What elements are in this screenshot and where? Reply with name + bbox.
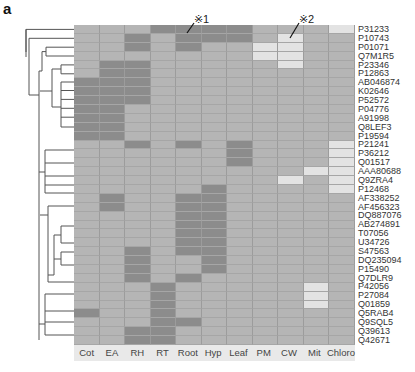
heatmap-cell: [227, 78, 253, 87]
heatmap-cell: [151, 327, 177, 336]
heatmap-cell: [329, 256, 355, 265]
heatmap-cell: [74, 69, 100, 78]
heatmap-cell: [278, 274, 304, 283]
heatmap-cell: [100, 132, 126, 141]
heatmap-cell: [253, 61, 279, 70]
heatmap-cell: [100, 238, 126, 247]
heatmap-cell: [100, 78, 126, 87]
heatmap-cell: [329, 132, 355, 141]
heatmap-cell: [125, 185, 151, 194]
heatmap-cell: [74, 327, 100, 336]
heatmap-cell: [304, 114, 330, 123]
heatmap-cell: [329, 301, 355, 310]
heatmap-cell: [227, 309, 253, 318]
heatmap-cell: [202, 265, 228, 274]
heatmap-cell: [278, 301, 304, 310]
heatmap-cell: [74, 292, 100, 301]
heatmap-cell: [329, 292, 355, 301]
heatmap-cell: [74, 87, 100, 96]
heatmap-cell: [151, 283, 177, 292]
heatmap-cell: [278, 212, 304, 221]
heatmap-cell: [304, 212, 330, 221]
heatmap-cell: [125, 229, 151, 238]
heatmap-cell: [74, 229, 100, 238]
heatmap-cell: [253, 167, 279, 176]
heatmap-cell: [253, 105, 279, 114]
heatmap-cell: [202, 96, 228, 105]
column-label: Root: [175, 345, 200, 361]
heatmap-cell: [278, 96, 304, 105]
heatmap-cell: [304, 105, 330, 114]
heatmap-cell: [227, 238, 253, 247]
heatmap-cell: [227, 158, 253, 167]
heatmap-cell: [329, 123, 355, 132]
heatmap-cell: [253, 221, 279, 230]
heatmap-cell: [304, 61, 330, 70]
heatmap-cell: [202, 61, 228, 70]
heatmap-cell: [227, 292, 253, 301]
heatmap-cell: [329, 69, 355, 78]
heatmap-cell: [253, 149, 279, 158]
heatmap-cell: [74, 301, 100, 310]
heatmap-cell: [176, 301, 202, 310]
heatmap-cell: [227, 69, 253, 78]
heatmap-cell: [151, 78, 177, 87]
heatmap-cell: [304, 274, 330, 283]
heatmap-cell: [176, 256, 202, 265]
heatmap-cell: [176, 149, 202, 158]
heatmap-cell: [151, 301, 177, 310]
heatmap-cell: [74, 194, 100, 203]
heatmap-cell: [151, 212, 177, 221]
heatmap-cell: [100, 105, 126, 114]
heatmap-cell: [74, 132, 100, 141]
heatmap-cell: [100, 309, 126, 318]
heatmap-cell: [253, 194, 279, 203]
heatmap-cell: [329, 176, 355, 185]
heatmap-cell: [329, 221, 355, 230]
heatmap-cell: [278, 256, 304, 265]
heatmap-cell: [202, 318, 228, 327]
heatmap-cell: [329, 149, 355, 158]
heatmap-cell: [125, 203, 151, 212]
heatmap-cell: [74, 123, 100, 132]
heatmap-cell: [176, 123, 202, 132]
heatmap-cell: [304, 87, 330, 96]
heatmap-cell: [100, 194, 126, 203]
heatmap-cell: [125, 318, 151, 327]
column-label: Leaf: [226, 345, 251, 361]
heatmap-cell: [151, 238, 177, 247]
heatmap-cell: [304, 149, 330, 158]
column-label: Mit: [302, 345, 327, 361]
heatmap-cell: [304, 238, 330, 247]
heatmap-cell: [227, 114, 253, 123]
heatmap-cell: [125, 149, 151, 158]
heatmap-cell: [100, 221, 126, 230]
heatmap-cell: [227, 185, 253, 194]
heatmap-cell: [151, 69, 177, 78]
heatmap-cell: [278, 318, 304, 327]
heatmap-cell: [151, 176, 177, 185]
heatmap-cell: [304, 318, 330, 327]
heatmap-cell: [253, 212, 279, 221]
heatmap-cell: [74, 185, 100, 194]
heatmap-cell: [100, 327, 126, 336]
heatmap-cell: [329, 336, 355, 345]
heatmap-cell: [304, 327, 330, 336]
heatmap-cell: [176, 87, 202, 96]
heatmap-cell: [176, 336, 202, 345]
heatmap-cell: [176, 167, 202, 176]
heatmap-cell: [329, 274, 355, 283]
heatmap-cell: [151, 336, 177, 345]
heatmap-cell: [176, 185, 202, 194]
column-label: PM: [251, 345, 276, 361]
heatmap-cell: [74, 167, 100, 176]
heatmap-cell: [176, 309, 202, 318]
heatmap-cell: [151, 247, 177, 256]
heatmap-cell: [176, 212, 202, 221]
heatmap-cell: [74, 149, 100, 158]
heatmap-cell: [253, 256, 279, 265]
heatmap-cell: [253, 141, 279, 150]
heatmap-cell: [176, 96, 202, 105]
heatmap-cell: [74, 221, 100, 230]
heatmap-cell: [329, 158, 355, 167]
